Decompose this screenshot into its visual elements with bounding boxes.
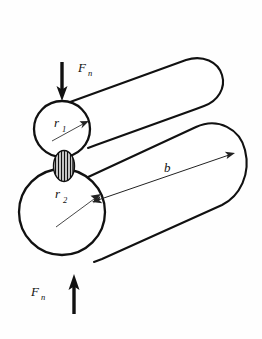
normal-force-top-arrow bbox=[57, 62, 68, 101]
contact-length-label: b bbox=[164, 160, 171, 175]
normal-force-bottom-arrow bbox=[69, 274, 80, 314]
normal-force-bottom-symbol: F bbox=[30, 284, 40, 299]
figure-canvas: F n F n r 1 r 2 b bbox=[0, 0, 262, 339]
normal-force-bottom-subscript: n bbox=[41, 292, 45, 302]
radius-upper-subscript: 1 bbox=[62, 124, 66, 134]
contact-length-symbol: b bbox=[164, 160, 171, 175]
lower-cylinder-outline bbox=[86, 123, 247, 262]
normal-force-top-label: F n bbox=[77, 60, 92, 78]
lower-cylinder bbox=[86, 123, 247, 262]
normal-force-bottom-label: F n bbox=[30, 284, 45, 302]
normal-force-top-subscript: n bbox=[88, 68, 92, 78]
contact-mechanics-figure: F n F n r 1 r 2 b bbox=[0, 0, 262, 339]
normal-force-top-symbol: F bbox=[77, 60, 87, 75]
